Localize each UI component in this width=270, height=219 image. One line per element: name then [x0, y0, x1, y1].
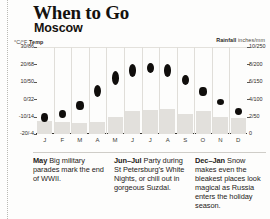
temp-axis-tick-label: 20/68: [21, 61, 35, 67]
rainfall-bar: [90, 122, 105, 134]
temperature-range-marker: [199, 87, 206, 96]
temp-axis-tick-label: -10/14: [19, 113, 34, 119]
rainfall-bar: [125, 111, 140, 134]
month-axis-label: J: [43, 137, 46, 143]
rain-axis-tick-mark: [247, 117, 250, 118]
temperature-range-marker: [59, 110, 66, 119]
temperature-range-marker: [147, 63, 154, 73]
month-axis-label: M: [113, 137, 118, 143]
month-gridline: [71, 47, 72, 134]
caption-item: Jun–Jul Party during St Petersburg’s Whi…: [114, 156, 186, 211]
month-axis-label: M: [77, 137, 82, 143]
temp-axis-tick-label: -20/-4: [20, 130, 34, 136]
rainfall-bar: [37, 121, 52, 134]
temperature-range-marker: [76, 101, 83, 110]
temp-axis-tick-mark: [34, 117, 37, 118]
rainfall-bar: [72, 123, 87, 134]
rain-axis-tick-mark: [247, 64, 250, 65]
rain-axis-tick-mark: [247, 99, 250, 100]
temperature-range-marker: [94, 85, 101, 97]
page-subtitle: Moscow: [34, 21, 83, 35]
rainfall-bar: [196, 111, 211, 134]
temp-axis-tick-mark: [34, 82, 37, 83]
month-axis-label: A: [166, 137, 170, 143]
temperature-range-marker: [235, 108, 242, 115]
temperature-range-marker: [164, 64, 171, 76]
month-axis-label: D: [236, 137, 241, 143]
rain-axis-heading: Rainfall inches/mm: [216, 37, 265, 43]
caption-item: May Big military parades mark the end of…: [33, 156, 105, 211]
temp-axis-tick-label: 10/50: [21, 78, 35, 84]
month-axis-label: J: [131, 137, 134, 143]
temp-axis-tick-mark: [34, 47, 37, 48]
caption-list: May Big military parades mark the end of…: [33, 156, 268, 211]
climate-chart-plot: 30/8620/6810/500/32-10/14-20/-410/2508/2…: [36, 47, 247, 134]
temperature-range-marker: [217, 99, 224, 105]
temperature-range-marker: [112, 71, 119, 85]
rain-axis-tick-label: 6/150: [249, 78, 263, 84]
when-to-go-infographic: When to Go Moscow °C/°F Temp Rainfall in…: [0, 0, 270, 219]
month-axis-label: J: [149, 137, 152, 143]
month-axis-label: O: [201, 137, 206, 143]
rainfall-bar: [160, 109, 175, 134]
caption-text: Snow makes even the bleakest places look…: [195, 156, 261, 210]
temperature-range-marker: [182, 75, 189, 85]
month-axis-label: N: [218, 137, 223, 143]
month-axis-label: F: [60, 137, 64, 143]
rain-axis-tick-label: 8/200: [249, 61, 263, 67]
rain-axis-tick-label: 4/100: [249, 96, 263, 102]
rain-axis-units: inches/mm: [238, 37, 265, 43]
rainfall-bar: [213, 117, 228, 134]
month-axis-label: S: [183, 137, 187, 143]
rain-axis-tick-label: 10/250: [249, 43, 266, 49]
caption-months: Jun–Jul: [114, 156, 142, 165]
left-dotted-rule: [7, 0, 8, 219]
rainfall-bar: [108, 117, 123, 134]
temp-axis-tick-mark: [34, 134, 37, 135]
temp-axis-tick-mark: [34, 64, 37, 65]
temp-axis-tick-label: 0/32: [24, 96, 35, 102]
month-axis-label: A: [95, 137, 99, 143]
rainfall-bar: [231, 118, 246, 134]
rain-axis-tick-label: 0: [249, 130, 252, 136]
rainfall-bar: [178, 114, 193, 134]
caption-months: Dec–Jan: [195, 156, 225, 165]
caption-divider: [33, 152, 266, 153]
temperature-range-marker: [129, 64, 136, 76]
rainfall-bar: [55, 122, 70, 134]
temp-axis-tick-mark: [34, 99, 37, 100]
rainfall-bar: [143, 110, 158, 134]
rain-axis-tick-mark: [247, 47, 250, 48]
rain-axis-name: Rainfall: [216, 37, 236, 43]
temp-axis-tick-label: 30/86: [21, 43, 35, 49]
rain-axis-tick-mark: [247, 82, 250, 83]
rain-axis-tick-label: 2/50: [249, 113, 260, 119]
caption-months: May: [33, 156, 47, 165]
caption-item: Dec–Jan Snow makes even the bleakest pla…: [195, 156, 267, 211]
